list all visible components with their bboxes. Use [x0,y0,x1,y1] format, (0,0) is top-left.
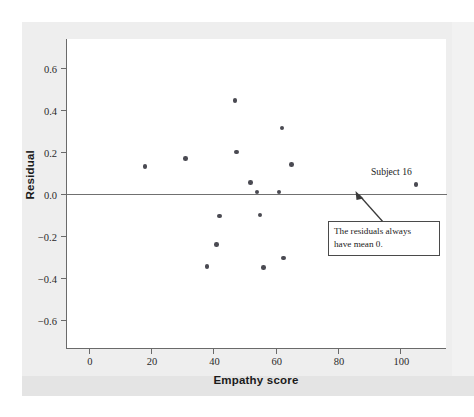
x-axis-tick: 60 [276,348,277,354]
x-axis-tick-label: 60 [271,356,282,367]
data-point [205,264,210,269]
data-point [289,162,294,167]
data-point [183,156,188,161]
x-axis-tick-label: 0 [87,356,92,367]
y-axis-tick-label: −0.4 [38,273,57,284]
data-point [233,98,238,103]
callout-line-1: The residuals always [334,225,435,238]
y-axis-tick: −0.2 [61,236,67,237]
data-point [143,164,148,169]
y-axis-tick: −0.4 [61,278,67,279]
x-axis-tick: 20 [151,348,152,354]
y-axis-tick-label: −0.6 [38,315,57,326]
subject-16-label: Subject 16 [371,166,412,177]
plot-area: 0.60.40.20.0−0.2−0.4−0.6020406080100 [66,39,446,349]
plot-inner: 0.60.40.20.0−0.2−0.4−0.6020406080100 [67,39,446,348]
x-axis-tick-label: 40 [209,356,220,367]
y-axis-tick-label: 0.2 [44,148,57,159]
data-point [248,180,253,185]
x-axis-tick-label: 20 [147,356,158,367]
zero-residual-line [67,194,447,195]
data-point [414,182,419,187]
data-point [258,213,263,218]
page-edge-shade-right [452,22,474,396]
y-axis-tick-label: 0.6 [44,64,57,75]
y-axis-tick: 0.4 [61,110,67,111]
y-axis-tick: 0.6 [61,68,67,69]
x-axis-tick-label: 100 [393,356,409,367]
data-point [214,242,219,247]
data-point [280,126,285,131]
data-point [281,256,286,261]
y-axis-tick-label: 0.4 [44,106,57,117]
data-point [217,214,222,219]
data-point [261,265,266,270]
x-axis-tick-label: 80 [334,356,345,367]
x-axis-tick: 80 [338,348,339,354]
y-axis-tick: 0.2 [61,152,67,153]
figure-page: 0.60.40.20.0−0.2−0.4−0.6020406080100 Emp… [0,0,474,417]
y-axis-tick-label: −0.2 [38,231,57,242]
y-axis-tick-label: 0.0 [44,190,57,201]
y-axis-title: Residual [24,150,36,200]
y-axis-tick: −0.6 [61,320,67,321]
mean-zero-callout: The residuals always have mean 0. [328,221,440,256]
x-axis-tick: 40 [213,348,214,354]
callout-line-2: have mean 0. [334,238,435,251]
x-axis-tick: 100 [400,348,401,354]
x-axis-tick: 0 [89,348,90,354]
x-axis-title: Empathy score [66,374,446,386]
data-point [234,150,239,155]
